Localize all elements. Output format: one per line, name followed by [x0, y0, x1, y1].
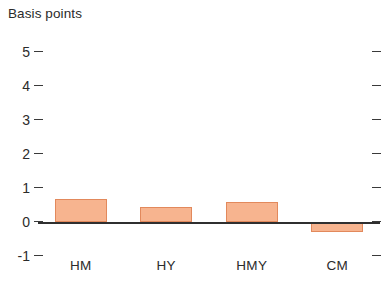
x-axis-tick-label: HMY: [236, 258, 267, 273]
bar: [140, 207, 192, 222]
y-axis-tick-mark-right: [372, 119, 381, 120]
y-axis-tick-mark-right: [372, 51, 381, 52]
y-axis-tick-label: 4: [8, 79, 30, 93]
y-axis-tick-mark-left: [34, 119, 43, 120]
bar-chart: Basis points 543210-1HMHYHMYCM: [0, 0, 384, 285]
y-axis-tick-mark-right: [372, 153, 381, 154]
x-axis-tick-label: HM: [70, 258, 92, 273]
y-axis-tick-mark-right: [372, 255, 381, 256]
y-axis-tick-mark-left: [34, 51, 43, 52]
y-axis-tick-mark-left: [34, 85, 43, 86]
y-axis-tick-mark-right: [372, 85, 381, 86]
y-axis-tick-label: -1: [8, 249, 30, 263]
plot-area: 543210-1HMHYHMYCM: [0, 0, 384, 285]
y-axis-tick-label: 5: [8, 45, 30, 59]
y-axis-tick-mark-left: [34, 153, 43, 154]
bar: [55, 199, 107, 222]
bar: [226, 202, 278, 222]
x-axis-tick-label: HY: [157, 258, 176, 273]
y-axis-tick-mark-left: [34, 187, 43, 188]
y-axis-tick-label: 2: [8, 147, 30, 161]
y-axis-tick-mark-left: [34, 255, 43, 256]
y-axis-tick-label: 0: [8, 215, 30, 229]
y-axis-tick-label: 1: [8, 181, 30, 195]
y-axis-tick-label: 3: [8, 113, 30, 127]
x-axis-tick-label: CM: [326, 258, 348, 273]
zero-baseline: [38, 222, 380, 224]
y-axis-tick-mark-right: [372, 187, 381, 188]
